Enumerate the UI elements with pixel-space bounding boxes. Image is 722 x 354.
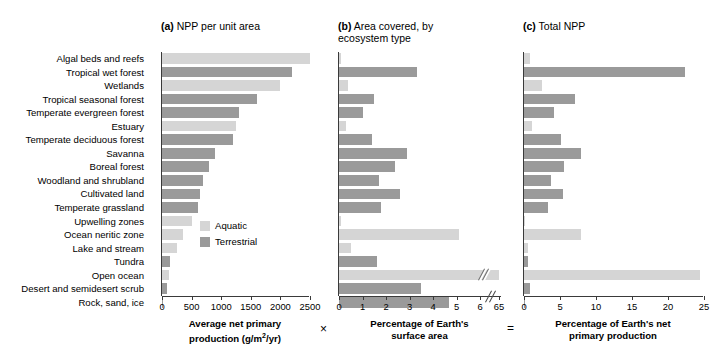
panel-c-axis-title-line2: primary production xyxy=(569,330,657,341)
bar-a-15 xyxy=(162,256,170,267)
bar-b-4 xyxy=(339,107,363,118)
axis-tick xyxy=(410,296,411,300)
category-label: Boreal forest xyxy=(0,160,148,174)
panel-a-bars xyxy=(162,52,309,296)
category-label: Cultivated land xyxy=(0,187,148,201)
panel-b-axis-title-line2: surface area xyxy=(391,330,448,341)
panel-a: 05001000150020002500 Average net primary… xyxy=(161,52,309,296)
panel-c-title: (c) Total NPP xyxy=(523,8,585,32)
bar-a-9 xyxy=(162,175,203,186)
axis-tick xyxy=(560,296,561,300)
category-label: Woodland and shrubland xyxy=(0,174,148,188)
panel-c-axis-title-line1: Percentage of Earth's net xyxy=(555,318,670,329)
bar-a-0 xyxy=(162,53,310,64)
panel-c-title-text: Total NPP xyxy=(536,20,585,32)
panel-b: 012345665 Percentage of Earth's surface … xyxy=(338,52,501,296)
axis-tick xyxy=(499,296,500,300)
axis-tick xyxy=(310,296,311,300)
panel-a-title: (a) NPP per unit area xyxy=(161,8,260,32)
chart-row xyxy=(339,160,501,174)
bar-c-5 xyxy=(524,121,532,132)
chart-row xyxy=(162,269,309,283)
axis-tick xyxy=(596,296,597,300)
panel-a-title-text: NPP per unit area xyxy=(174,20,260,32)
npp-figure: (a) NPP per unit area (b) Area covered, … xyxy=(0,0,722,354)
legend-swatch-aquatic xyxy=(200,221,210,231)
chart-row xyxy=(339,201,501,215)
chart-row xyxy=(524,201,703,215)
bar-c-11 xyxy=(524,202,548,213)
category-label: Ocean neritic zone xyxy=(0,228,148,242)
panel-a-axis-title-line2: production (g/m xyxy=(189,333,262,344)
category-label: Algal beds and reefs xyxy=(0,52,148,66)
chart-row xyxy=(524,215,703,229)
axis-tick-label: 0 xyxy=(521,301,526,312)
bar-b-11 xyxy=(339,202,381,213)
bar-b-1 xyxy=(339,67,417,78)
bar-c-16 xyxy=(524,270,700,281)
axis-tick xyxy=(457,296,458,300)
panel-b-title-text: Area covered, by ecosystem type xyxy=(338,20,433,44)
bar-c-7 xyxy=(524,148,581,159)
axis-tick xyxy=(221,296,222,300)
axis-tick-label: 5 xyxy=(454,301,459,312)
panel-b-plot: 012345665 xyxy=(338,52,501,296)
bar-a-3 xyxy=(162,94,257,105)
bar-c-12 xyxy=(524,216,525,227)
chart-row xyxy=(339,52,501,66)
bar-c-8 xyxy=(524,161,564,172)
axis-tick xyxy=(632,296,633,300)
category-label: Tundra xyxy=(0,255,148,269)
bar-b-9 xyxy=(339,175,379,186)
category-label: Wetlands xyxy=(0,79,148,93)
bar-b-2 xyxy=(339,80,348,91)
operator-multiply: × xyxy=(320,322,327,336)
bar-a-7 xyxy=(162,148,215,159)
bar-b-3 xyxy=(339,94,374,105)
panel-c-axis-line xyxy=(524,296,703,297)
axis-tick xyxy=(280,296,281,300)
axis-tick xyxy=(433,296,434,300)
panel-c-title-prefix: (c) xyxy=(523,20,536,32)
panel-c-plot: 0510152025 xyxy=(523,52,703,296)
axis-tick-label: 20 xyxy=(663,301,673,312)
chart-row xyxy=(524,228,703,242)
axis-tick-label: 2000 xyxy=(270,301,291,312)
bar-c-3 xyxy=(524,94,575,105)
panel-a-axis-line xyxy=(162,296,309,297)
axis-tick xyxy=(339,296,340,300)
chart-row xyxy=(524,255,703,269)
axis-tick-label: 2 xyxy=(383,301,388,312)
axis-tick xyxy=(363,296,364,300)
axis-tick-label: 5 xyxy=(557,301,562,312)
chart-row xyxy=(339,228,501,242)
legend: Aquatic Terrestrial xyxy=(200,219,257,251)
chart-row xyxy=(524,120,703,134)
chart-row xyxy=(162,255,309,269)
chart-row xyxy=(162,187,309,201)
chart-row xyxy=(524,187,703,201)
chart-row xyxy=(162,282,309,296)
chart-row xyxy=(162,133,309,147)
legend-label-aquatic: Aquatic xyxy=(215,220,247,231)
axis-tick xyxy=(251,296,252,300)
bar-a-4 xyxy=(162,107,239,118)
panel-b-axis-title: Percentage of Earth's surface area xyxy=(338,318,501,341)
chart-row xyxy=(524,296,703,310)
legend-label-terrestrial: Terrestrial xyxy=(215,236,257,247)
bar-c-0 xyxy=(524,53,530,64)
axis-tick xyxy=(668,296,669,300)
chart-row xyxy=(339,187,501,201)
bar-c-17 xyxy=(524,283,530,294)
bar-c-2 xyxy=(524,80,542,91)
axis-tick-label: 2500 xyxy=(300,301,321,312)
panel-c-bars xyxy=(524,52,703,296)
chart-row xyxy=(339,66,501,80)
category-label: Tropical wet forest xyxy=(0,66,148,80)
chart-row xyxy=(339,282,501,296)
chart-row xyxy=(339,242,501,256)
category-label: Temperate grassland xyxy=(0,201,148,215)
category-label: Upwelling zones xyxy=(0,215,148,229)
axis-tick-label: 10 xyxy=(591,301,601,312)
chart-row xyxy=(162,174,309,188)
